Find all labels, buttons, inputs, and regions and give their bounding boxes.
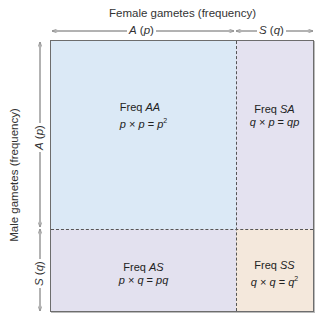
cell-as-formula: p × q = pq (119, 274, 169, 287)
female-allele-a-label: A (p) (127, 24, 156, 36)
cell-sa: Freq SA q × p = qp (236, 41, 313, 229)
cell-ss-formula: q × q = q2 (251, 272, 298, 289)
punnett-square: Freq AA p × p = p2 Freq SA q × p = qp Fr… (50, 40, 314, 312)
vertical-divider (236, 41, 237, 311)
female-allele-s-label: S (q) (257, 24, 286, 36)
cell-sa-formula: q × p = qp (250, 116, 300, 129)
cell-aa: Freq AA p × p = p2 (51, 41, 236, 229)
male-allele-a-label: A (p) (33, 123, 45, 152)
cell-as-label: Freq AS p × q = pq (119, 261, 169, 287)
cell-aa-label: Freq AA p × p = p2 (120, 101, 167, 131)
female-gametes-title: Female gametes (frequency) (0, 7, 330, 19)
male-gametes-title: Male gametes (frequency) (8, 75, 20, 275)
cell-ss-label: Freq SS q × q = q2 (251, 259, 298, 289)
cell-ss: Freq SS q × q = q2 (236, 229, 313, 311)
cell-as: Freq AS p × q = pq (51, 229, 236, 311)
horizontal-divider (51, 229, 313, 230)
male-allele-s-label: S (q) (33, 259, 45, 288)
cell-sa-label: Freq SA q × p = qp (250, 103, 300, 129)
cell-aa-formula: p × p = p2 (120, 114, 167, 131)
